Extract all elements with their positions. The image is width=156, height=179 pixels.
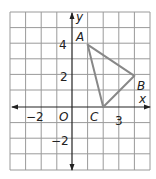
triangle-abc xyxy=(88,45,135,107)
vertex-c-label: C xyxy=(90,110,99,124)
y-axis-label: y xyxy=(75,10,84,24)
x-axis-label: x xyxy=(138,92,147,106)
y-tick-2: 2 xyxy=(60,70,68,84)
x-tick-3: 3 xyxy=(115,114,123,128)
origin-label: O xyxy=(59,110,68,124)
y-tick-neg2: −2 xyxy=(51,134,69,148)
x-tick-neg2: −2 xyxy=(26,110,44,124)
y-tick-4: 4 xyxy=(59,38,67,52)
y-axis-up-arrow-icon xyxy=(70,12,75,19)
coordinate-plane: y x O 4 2 −2 −2 3 A B C xyxy=(0,0,156,179)
vertex-a-label: A xyxy=(75,30,84,44)
vertex-b-label: B xyxy=(137,79,145,93)
x-axis-left-arrow-icon xyxy=(11,105,18,110)
